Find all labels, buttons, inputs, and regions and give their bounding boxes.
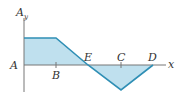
point-e-label: E [83, 51, 92, 64]
positive-area [24, 38, 88, 65]
negative-area [88, 65, 153, 90]
y-axis-label: A [15, 6, 24, 19]
point-a-label: A [9, 59, 18, 72]
diagram-canvas: A y x A B E C D [0, 0, 181, 97]
point-b-label: B [51, 69, 60, 82]
point-d-label: D [147, 51, 157, 64]
point-c-label: C [117, 51, 126, 64]
y-axis-subscript: y [23, 13, 29, 21]
x-axis-label: x [168, 58, 175, 71]
